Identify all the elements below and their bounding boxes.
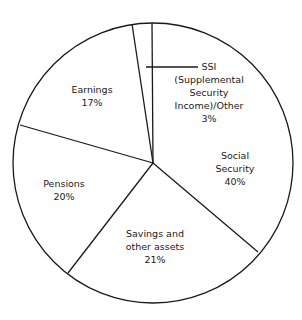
savings-label-line1: Savings and — [126, 228, 184, 239]
social-security-label-line2: Security — [215, 163, 254, 174]
earnings-value: 17% — [81, 97, 102, 108]
pensions-value: 20% — [53, 191, 74, 202]
ssi-label-line1: SSI — [202, 61, 217, 72]
pensions-label: Pensions — [43, 178, 85, 189]
ssi-label-line3: Security — [189, 87, 228, 98]
savings-label-line2: other assets — [126, 241, 185, 252]
earnings-label: Earnings — [71, 84, 112, 95]
ssi-label-line4: Income)/Other — [175, 100, 244, 111]
social-security-value: 40% — [224, 176, 245, 187]
savings-value: 21% — [144, 254, 165, 265]
ssi-label-value: 3% — [201, 113, 216, 124]
pie-chart: SSI (Supplemental Security Income)/Other… — [0, 0, 302, 320]
ssi-label-line2: (Supplemental — [174, 74, 244, 85]
social-security-label-line1: Social — [221, 150, 249, 161]
